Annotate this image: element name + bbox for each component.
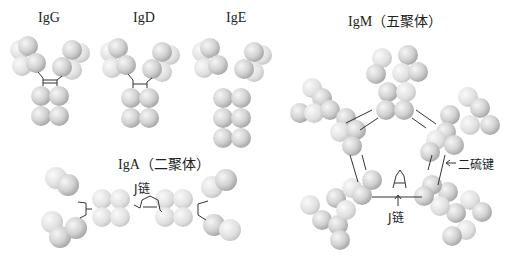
iga-domain [173,189,193,209]
iga-domain [155,207,175,227]
igm-domain [444,135,464,155]
label-ige: IgE [226,10,246,26]
immunoglobulin-diagram [0,0,516,265]
igm-domain [362,170,382,190]
igm-domain [396,82,416,102]
igm-domain [378,82,398,102]
label-igm: IgM（五聚体） [348,10,442,30]
ige-domain [244,42,264,62]
ige-domain [231,108,251,128]
igd-hinge [128,74,133,88]
igg-hinge [57,76,62,86]
igm-domain [440,105,460,125]
igd-hinge [147,78,152,88]
iga-domain [215,169,237,191]
iga-hinge-left [78,202,86,218]
label-iga: IgA（二聚体） [118,153,210,173]
igg-domain [26,53,46,73]
label-disulfide-bond: 二硫键 [458,155,494,172]
igm-domain [480,115,500,135]
igm-domain [420,142,440,162]
iga-domain [155,189,175,209]
igm-disulfide [416,110,436,124]
igd-domain [139,88,159,108]
igm-domain [460,115,480,135]
igg-domain [52,57,72,77]
igd-domain [152,42,172,62]
igm-domain [376,100,396,120]
igd-domain [121,88,141,108]
igm-disulfide [350,155,358,182]
iga-domain [110,207,130,227]
iga-domain [57,174,79,196]
igm-domain [366,64,386,84]
igm-disulfide [438,155,445,185]
igd-domain [139,108,159,128]
igm-j-chain [393,170,406,188]
igd-domain [108,38,128,58]
igg-domain [62,40,82,60]
iga-domain [65,217,87,239]
iga-domain [110,189,130,209]
igm-domain [414,186,434,206]
igd-domain [121,108,141,128]
igg-domain [31,86,51,106]
igm-domain [336,200,356,220]
igm-domain [342,136,362,156]
ige-domain [231,128,251,148]
igm-disulfide [362,155,366,170]
ige-domain [213,128,233,148]
igm-domain [442,226,462,246]
igg-domain [49,106,69,126]
igm-domain [470,98,490,118]
iga-domain [173,207,193,227]
igm-disulfide [412,118,426,128]
ige-domain [231,88,251,108]
igm-domain [472,202,492,222]
igd-domain [142,59,162,79]
ige-domain [208,55,228,75]
igg-hinge [38,72,43,86]
iga-domain [92,207,112,227]
ige-domain [213,108,233,128]
label-j-chain-iga: J链 [134,179,150,196]
iga-domain [92,189,112,209]
ige-domain [200,38,220,58]
label-j-chain-igm: J链 [388,208,404,225]
igm-domain [394,100,414,120]
igm-domain [398,45,418,65]
igm-domain [330,230,350,250]
igg-domain [31,106,51,126]
label-igg: IgG [38,10,60,26]
ige-domain [234,59,254,79]
igd-domain [116,55,136,75]
iga-domain [219,219,241,241]
igg-domain [18,36,38,56]
label-igd: IgD [133,10,155,26]
ige-domain [213,88,233,108]
igg-domain [49,86,69,106]
igm-domain [408,62,428,82]
